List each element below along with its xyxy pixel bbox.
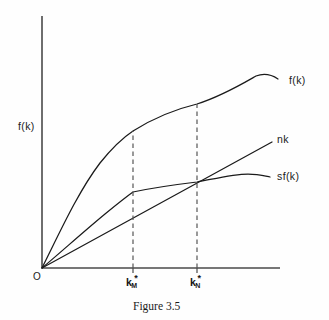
curve-label-saving-function: sf(k) <box>277 170 299 182</box>
curve-saving-function <box>42 174 270 268</box>
curve-label-production-function: f(k) <box>289 74 306 86</box>
curve-production-function <box>42 75 278 268</box>
origin-label: O <box>33 271 41 282</box>
growth-model-plot <box>0 0 329 320</box>
tick-sub-M: M <box>131 282 137 289</box>
figure-container: f(k) O f(k) nk sf(k) kM* kN* Figure 3.5 <box>0 0 329 320</box>
tick-sup-star-N: * <box>197 273 201 283</box>
tick-sub-N: N <box>195 282 200 289</box>
y-axis-label: f(k) <box>18 120 35 132</box>
tick-label-k-N-star: kN* <box>190 277 204 288</box>
tick-sup-star-M: * <box>134 273 138 283</box>
curve-required-investment <box>42 142 272 268</box>
tick-label-k-M-star: kM* <box>126 277 141 288</box>
figure-caption: Figure 3.5 <box>133 300 180 312</box>
curve-label-required-investment: nk <box>277 133 289 145</box>
